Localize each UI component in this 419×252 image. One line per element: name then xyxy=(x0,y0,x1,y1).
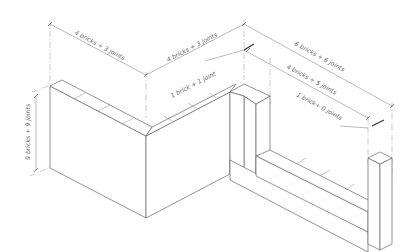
end-pier xyxy=(368,152,392,250)
label-right-wall-length: 4 bricks + 3 joints xyxy=(165,30,219,63)
brick-wall-diagram: 4 bricks + 3 joints 4 bricks + 3 joints … xyxy=(0,0,419,252)
label-pier-projection: 1 brick + 1 joint xyxy=(169,69,217,99)
label-end-pier-width: 1 brick+ 0 joints xyxy=(295,91,344,123)
label-low-wall-opening: 4 bricks + 5 joints xyxy=(285,63,339,97)
label-left-wall-length: 4 bricks + 3 joints xyxy=(73,29,127,63)
label-wall-height: 9 bricks + 9 joints xyxy=(24,103,32,160)
tall-corner-wall xyxy=(50,80,236,218)
